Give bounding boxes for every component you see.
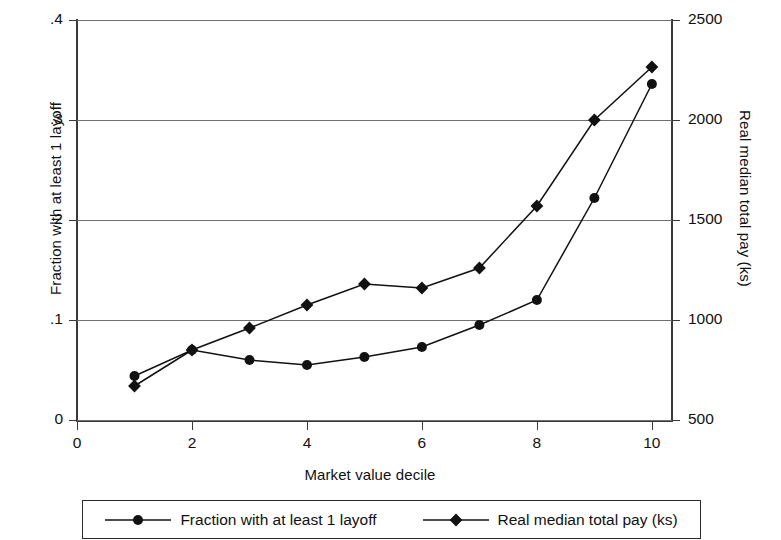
data-point-diamond [358,278,371,291]
legend-circle-icon [105,512,171,528]
data-point-circle [359,352,369,362]
data-point-circle [417,342,427,352]
y-axis-right-tick-label: 1500 [688,210,758,228]
y-tick-left [69,20,77,21]
gridline [77,420,672,421]
y-axis-right-tick-label: 1000 [688,310,758,328]
y-axis-right-title: Real median total pay (ks) [737,49,754,349]
data-point-diamond [301,299,314,312]
series-line [135,84,652,376]
y-tick-right [672,120,680,121]
x-axis-tick-label: 0 [57,434,97,452]
x-tick [537,421,538,430]
x-tick [422,421,423,430]
data-point-diamond [416,282,429,295]
legend-entry[interactable]: Real median total pay (ks) [423,511,678,529]
y-tick-left [69,220,77,221]
y-tick-right [672,20,680,21]
y-axis-left-tick-label: .2 [3,210,63,228]
x-tick [77,421,78,430]
chart-figure: Fraction with at least 1 layoff Real med… [0,0,781,540]
legend-label: Real median total pay (ks) [498,511,678,529]
y-tick-left [69,120,77,121]
data-point-circle [474,320,484,330]
x-axis-tick-label: 2 [172,434,212,452]
legend-label: Fraction with at least 1 layoff [180,511,376,529]
data-series-layer [77,20,672,420]
series-line [135,67,652,386]
data-point-circle [245,355,255,365]
y-axis-right-tick-label: 2000 [688,110,758,128]
y-axis-left-tick-label: 0 [3,410,63,428]
y-tick-right [672,320,680,321]
legend-entry[interactable]: Fraction with at least 1 layoff [105,511,376,529]
chart-legend: Fraction with at least 1 layoffReal medi… [82,500,701,539]
data-point-circle [130,371,140,381]
y-tick-right [672,420,680,421]
data-point-circle [302,360,312,370]
y-axis-left-title: Fraction with at least 1 layoff [47,49,64,349]
plot-area [77,20,672,420]
data-point-circle [647,79,657,89]
x-tick [652,421,653,430]
legend-diamond-icon [423,512,489,528]
data-point-diamond [186,344,199,357]
x-axis-tick-label: 6 [402,434,442,452]
x-axis-tick-label: 10 [632,434,672,452]
y-tick-left [69,320,77,321]
y-axis-right-tick-label: 2500 [688,10,758,28]
x-tick [192,421,193,430]
y-axis-right-tick-label: 500 [688,410,758,428]
data-point-diamond [243,322,256,335]
x-tick [307,421,308,430]
y-axis-left-tick-label: .1 [3,310,63,328]
x-axis-tick-label: 8 [517,434,557,452]
data-point-diamond [128,380,141,393]
y-axis-left-tick-label: .4 [3,10,63,28]
x-axis-title: Market value decile [0,466,740,483]
y-axis-left-tick-label: .3 [3,110,63,128]
y-tick-right [672,220,680,221]
data-point-circle [589,193,599,203]
data-point-circle [532,295,542,305]
x-axis-tick-label: 4 [287,434,327,452]
y-tick-left [69,420,77,421]
